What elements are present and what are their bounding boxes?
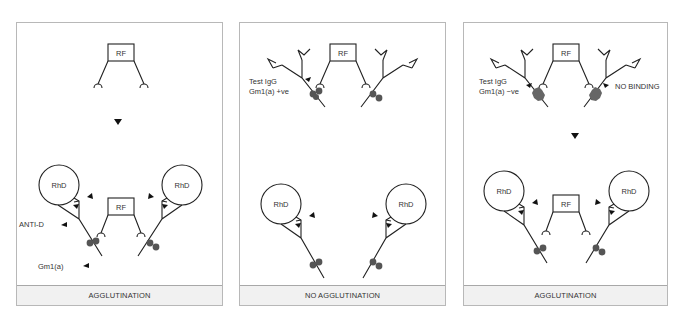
gm1a-label: Gm1(a) — [38, 262, 64, 271]
rf-label: RF — [561, 49, 571, 58]
arrow-down-icon — [114, 119, 122, 125]
rhd-label: RhD — [496, 187, 512, 196]
rf-label: RF — [116, 203, 126, 212]
rf-label: RF — [338, 49, 348, 58]
diagram-test-igg-positive: RF RhD RhD Test IgG Gm1(a) +ve — [240, 23, 447, 307]
caption-no-agglutination: NO AGGLUTINATION — [240, 285, 445, 305]
panel-no-agglutination: RF RhD RhD Test IgG Gm1(a) +ve NO AGGLUT… — [239, 22, 446, 306]
rhd-label: RhD — [398, 200, 414, 209]
rhd-label: RhD — [174, 181, 190, 190]
caption-agglutination: AGGLUTINATION — [464, 285, 667, 305]
arrow-down-icon — [571, 133, 579, 139]
panel-agglutination-2: RF RF RhD RhD Test IgG Gm1(a) −ve NO BIN… — [463, 22, 668, 306]
diagram-test-igg-negative: RF RF RhD RhD Test IgG Gm1(a) −ve NO BIN… — [464, 23, 669, 307]
caption-agglutination: AGGLUTINATION — [17, 285, 222, 305]
diagram-rf-anti-d: RF RF RhD RhD ANTI-D Gm1(a) — [17, 23, 224, 307]
gm1a-negative-label: Gm1(a) −ve — [479, 87, 519, 96]
test-igg-label: Test IgG — [249, 77, 277, 86]
no-binding-label: NO BINDING — [615, 82, 660, 91]
gm-negative-marker-icon — [532, 87, 602, 101]
rf-label: RF — [116, 49, 126, 58]
gm1a-positive-label: Gm1(a) +ve — [249, 87, 289, 96]
rhd-label: RhD — [273, 200, 289, 209]
panel-agglutination-1: RF RF RhD RhD ANTI-D Gm1(a) AGGLUTINATIO… — [16, 22, 223, 306]
anti-d-label: ANTI-D — [19, 220, 45, 229]
rhd-label: RhD — [51, 181, 67, 190]
rhd-label: RhD — [621, 187, 637, 196]
rf-label: RF — [561, 200, 571, 209]
test-igg-label: Test IgG — [479, 77, 507, 86]
